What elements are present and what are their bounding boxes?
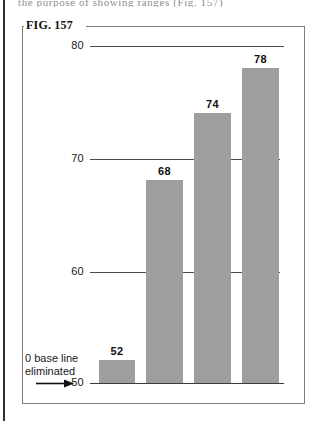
bar-value-2: 68 — [146, 165, 183, 177]
annotation-line-2: eliminated — [25, 365, 78, 378]
axis-baseline-50 — [90, 383, 284, 384]
baseline-annotation: 0 base line eliminated — [25, 352, 78, 378]
bar-value-4: 78 — [242, 53, 279, 65]
gridline-80 — [90, 46, 284, 47]
bar-chart-plot-area: 80 70 60 50 52 68 74 78 0 base line elim… — [0, 0, 328, 421]
ytick-label-70: 70 — [58, 152, 84, 164]
ytick-label-80: 80 — [58, 39, 84, 51]
bar-4 — [242, 68, 279, 383]
bar-value-3: 74 — [194, 98, 231, 110]
right-arrow-icon — [36, 379, 74, 388]
bar-1 — [99, 360, 135, 383]
annotation-line-1: 0 base line — [25, 352, 78, 365]
ytick-label-60: 60 — [58, 265, 84, 277]
bar-2 — [146, 180, 183, 383]
bar-value-1: 52 — [99, 345, 135, 357]
bar-3 — [194, 113, 231, 383]
